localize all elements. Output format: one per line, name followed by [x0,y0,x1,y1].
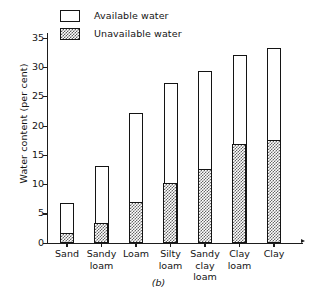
bar-sandy-clay-loam [198,71,212,243]
y-axis-tick-label: 5 [38,207,44,218]
bar-silty-loam [164,83,178,243]
bar-segment-unavailable-water [94,223,108,244]
y-axis-tick-label: 10 [32,178,44,189]
bar-clay-loam [233,55,247,242]
x-axis-tick-mark [101,243,102,247]
bar-segment-unavailable-water [232,144,246,243]
bar-segment-unavailable-water [267,140,281,243]
x-axis-category-label-line: Clay [246,248,302,260]
figure-caption: (b) [0,277,317,288]
x-axis-tick-mark [170,243,171,247]
legend-swatch-available-water-icon [60,10,80,22]
bar-segment-unavailable-water [60,233,74,244]
legend-label-available-water: Available water [94,10,169,21]
y-axis-title: Water content (per cent) [18,39,29,209]
x-axis-arrow-icon [301,239,305,243]
y-axis-tick-label: 35 [32,32,44,43]
x-axis-category-label-line: loam [74,260,130,272]
y-axis-tick-label: 30 [32,61,44,72]
bar-sandy-loam [95,166,109,243]
bar-segment-unavailable-water [129,202,143,243]
bar-segment-unavailable-water [163,183,177,243]
y-axis-tick-label: 25 [32,90,44,101]
x-axis-tick-mark [204,243,205,247]
y-axis-line [47,33,48,244]
bar-loam [129,113,143,243]
figure-panel: Available water Unavailable water Water … [0,0,317,301]
x-axis-tick-mark [239,243,240,247]
bar-clay [267,48,281,242]
plot-area: 05101520253035 SandSandyloamLoamSiltyloa… [47,33,303,244]
x-axis-category-label: Clay [246,248,302,260]
x-axis-tick-mark [135,243,136,247]
x-axis-tick-mark [66,243,67,247]
x-axis-tick-mark [273,243,274,247]
x-axis-category-label-line: loam [212,260,268,272]
y-axis-tick-label: 20 [32,120,44,131]
legend-item-available-water: Available water [60,8,230,23]
bar-sand [60,203,74,243]
y-axis-tick-label: 0 [38,237,44,248]
y-axis-tick-label: 15 [32,149,44,160]
bar-segment-unavailable-water [198,169,212,243]
